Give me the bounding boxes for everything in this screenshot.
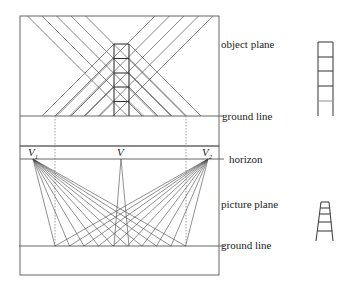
picture-plane-label: picture plane bbox=[221, 199, 278, 210]
vanishing-point-v2-label: V2 bbox=[202, 147, 212, 161]
ladder-perspective-icon bbox=[316, 202, 333, 241]
ground-line-bottom-label: ground line bbox=[221, 240, 271, 251]
ground-line-top-label: ground line bbox=[222, 111, 272, 122]
perspective-rays bbox=[33, 159, 208, 246]
projection-lines bbox=[55, 116, 186, 246]
vanishing-point-v-label: V bbox=[117, 147, 124, 158]
horizon-label: horizon bbox=[229, 154, 263, 165]
vanishing-point-v1-label: V1 bbox=[28, 147, 38, 161]
ladder-elevation-icon bbox=[318, 42, 333, 116]
object-plane-label: object plane bbox=[221, 39, 274, 50]
perspective-diagram bbox=[0, 0, 354, 291]
